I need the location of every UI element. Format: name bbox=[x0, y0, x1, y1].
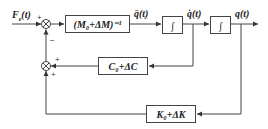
integrator-1-block: ∫ bbox=[162, 16, 183, 34]
sign-top-bottom: − bbox=[50, 37, 55, 45]
damping-block: C₀+ΔC bbox=[98, 57, 148, 75]
velocity-label: q̇(t) bbox=[187, 9, 201, 19]
stiffness-block: K₀+ΔK bbox=[146, 105, 196, 123]
input-label: Fe(t) bbox=[12, 10, 31, 22]
summing-junction-top bbox=[41, 19, 51, 29]
position-label: q(t) bbox=[235, 9, 249, 19]
integrator-2-block: ∫ bbox=[210, 16, 231, 34]
acceleration-label: q̈(t) bbox=[134, 9, 148, 19]
integral-icon: ∫ bbox=[219, 20, 222, 31]
integral-icon: ∫ bbox=[171, 20, 174, 31]
sign-bottom-right: + bbox=[55, 56, 60, 64]
sign-bottom-bottom: + bbox=[51, 71, 56, 79]
summing-junction-bottom bbox=[41, 61, 51, 71]
mass-inverse-block: (M₀+ΔM)⁻¹ bbox=[65, 15, 130, 33]
sign-top-left: + bbox=[37, 14, 42, 22]
